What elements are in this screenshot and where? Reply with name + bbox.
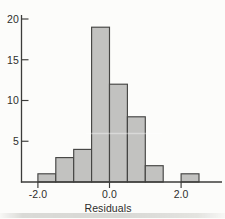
histogram-bar: [74, 149, 92, 182]
histogram-bar: [56, 158, 74, 182]
x-tick-label: 2.0: [174, 188, 189, 200]
x-tick-label: 0.0: [102, 188, 117, 200]
y-tick-label: 10: [7, 94, 19, 106]
histogram-bar: [127, 117, 145, 182]
histogram-bar: [92, 27, 110, 182]
y-tick-label: 5: [13, 135, 19, 147]
y-tick-label: 15: [7, 54, 19, 66]
x-axis-title: Residuals: [84, 202, 131, 214]
histogram-bar: [181, 174, 199, 182]
scanned-figure: 5101520-2.00.02.0Residuals: [0, 0, 225, 219]
histogram-chart: 5101520-2.00.02.0Residuals: [0, 0, 225, 219]
y-tick-label: 20: [7, 13, 19, 25]
histogram-bar: [38, 174, 56, 182]
histogram-bar: [145, 166, 163, 182]
x-tick-label: -2.0: [29, 188, 48, 200]
